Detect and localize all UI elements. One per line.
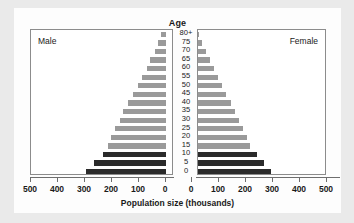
male-bar-cell (31, 100, 166, 105)
male-bar-cell (31, 109, 166, 114)
male-bar (155, 49, 166, 54)
x-axis-male (30, 177, 174, 178)
x-tick-label: 400 (42, 184, 72, 194)
x-tick (326, 177, 327, 182)
x-tick-label: 300 (257, 184, 287, 194)
male-bar (133, 92, 166, 97)
male-bar-cell (31, 118, 166, 123)
female-bar (192, 169, 271, 174)
female-bar (192, 135, 247, 140)
male-bar-cell (31, 32, 166, 37)
male-bar-cell (31, 49, 166, 54)
male-bar (115, 126, 166, 131)
age-tick-label: 30 (173, 115, 199, 123)
x-tick-label: 0 (176, 184, 206, 194)
female-bar-cell (192, 169, 327, 174)
age-tick-label: 20 (173, 132, 199, 140)
x-tick (245, 177, 246, 182)
male-bar (94, 160, 166, 165)
male-bar-cell (31, 126, 166, 131)
x-tick-label: 300 (69, 184, 99, 194)
female-bar (192, 160, 264, 165)
male-bar-cell (31, 135, 166, 140)
x-tick-label: 500 (311, 184, 341, 194)
male-bar (158, 40, 166, 45)
female-bar-cell (192, 152, 327, 157)
age-tick-label: 5 (173, 158, 199, 166)
age-axis-strip: 80+757065605550454035302520151050 (172, 29, 198, 175)
female-bar-cell (192, 109, 327, 114)
x-tick-label: 100 (123, 184, 153, 194)
female-bar-cell (192, 83, 327, 88)
female-bar-cell (192, 126, 327, 131)
female-bar-cell (192, 92, 327, 97)
female-bar-cell (192, 75, 327, 80)
male-bar-cell (31, 92, 166, 97)
male-bar (111, 135, 166, 140)
male-bar-cell (31, 143, 166, 148)
male-bar (128, 100, 166, 105)
female-bar (192, 118, 239, 123)
male-bar (138, 83, 166, 88)
age-tick-label: 45 (173, 89, 199, 97)
age-tick-label: 55 (173, 72, 199, 80)
male-bar (147, 66, 166, 71)
x-tick (111, 177, 112, 182)
x-tick-label: 500 (15, 184, 45, 194)
male-bar (86, 169, 166, 174)
female-bar-cell (192, 40, 327, 45)
male-bar (142, 75, 166, 80)
male-bar-cell (31, 160, 166, 165)
male-bar-cell (31, 66, 166, 71)
male-bar-cell (31, 57, 166, 62)
female-bar (192, 143, 250, 148)
figure-container: Age Male Female 80+757065605550454035302… (0, 0, 354, 223)
female-bar-cell (192, 49, 327, 54)
x-tick (165, 177, 166, 182)
male-bar-cell (31, 169, 166, 174)
x-tick (299, 177, 300, 182)
female-bar-cell (192, 135, 327, 140)
male-bar-cell (31, 152, 166, 157)
x-axis-title: Population size (thousands) (14, 198, 341, 208)
female-bar-cell (192, 66, 327, 71)
age-axis-title: Age (14, 18, 341, 28)
age-tick-label: 80+ (173, 29, 199, 37)
male-bar-cell (31, 75, 166, 80)
x-tick-label: 200 (96, 184, 126, 194)
x-tick (191, 177, 192, 182)
male-bar (120, 118, 166, 123)
male-bar-cell (31, 40, 166, 45)
female-bar-cell (192, 32, 327, 37)
x-tick-label: 200 (230, 184, 260, 194)
x-tick (84, 177, 85, 182)
female-bar-cell (192, 57, 327, 62)
x-tick-label: 100 (203, 184, 233, 194)
male-bar (108, 143, 166, 148)
x-tick (218, 177, 219, 182)
female-bar-cell (192, 118, 327, 123)
age-tick-label: 0 (173, 167, 199, 175)
male-bar (103, 152, 166, 157)
female-bar-cell (192, 160, 327, 165)
female-bar (192, 126, 243, 131)
male-bar-cell (31, 83, 166, 88)
x-tick (272, 177, 273, 182)
chart-card: Age Male Female 80+757065605550454035302… (14, 8, 341, 213)
female-bar-cell (192, 143, 327, 148)
male-bar (150, 57, 166, 62)
x-tick (138, 177, 139, 182)
female-bar (192, 152, 257, 157)
male-bar (123, 109, 166, 114)
x-tick (57, 177, 58, 182)
x-tick-label: 400 (284, 184, 314, 194)
x-tick (30, 177, 31, 182)
female-bar-cell (192, 100, 327, 105)
